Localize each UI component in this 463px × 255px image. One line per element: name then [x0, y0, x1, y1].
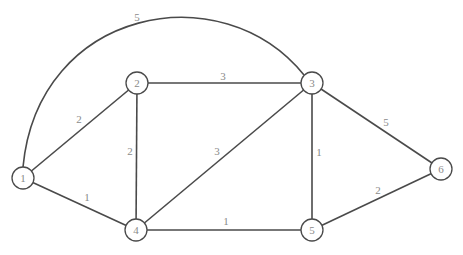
node-1: 1 — [12, 167, 34, 189]
edge-3-6 — [312, 83, 441, 169]
node-3: 3 — [301, 72, 323, 94]
node-label: 4 — [133, 224, 139, 236]
node-label: 5 — [309, 224, 315, 236]
node-label: 1 — [20, 172, 26, 184]
edge-5-6 — [312, 169, 441, 230]
edge-weight-1-4: 1 — [84, 191, 90, 203]
edge-4-3 — [136, 83, 312, 230]
node-2: 2 — [126, 72, 148, 94]
edge-1-2 — [23, 83, 137, 178]
edge-weight-4-5: 1 — [223, 215, 229, 227]
edge-weight-2-4: 2 — [127, 145, 133, 157]
edge-weight-4-3: 3 — [214, 145, 220, 157]
edge-labels-layer: 5213231512 — [76, 11, 389, 227]
edge-2-4 — [136, 83, 137, 230]
node-label: 6 — [438, 163, 444, 175]
edge-weight-3-5: 1 — [316, 146, 322, 158]
edge-weight-2-3: 3 — [220, 70, 226, 82]
edge-1-3 — [23, 17, 304, 167]
edge-weight-5-6: 2 — [375, 184, 381, 196]
node-5: 5 — [301, 219, 323, 241]
node-6: 6 — [430, 158, 452, 180]
edge-1-4 — [23, 178, 136, 230]
graph-diagram: 5213231512 123456 — [0, 0, 463, 255]
edge-weight-1-3: 5 — [134, 11, 140, 23]
nodes-layer: 123456 — [12, 72, 452, 241]
edge-weight-1-2: 2 — [76, 113, 82, 125]
node-label: 2 — [134, 77, 140, 89]
edge-weight-3-6: 5 — [383, 116, 389, 128]
node-4: 4 — [125, 219, 147, 241]
node-label: 3 — [309, 77, 315, 89]
